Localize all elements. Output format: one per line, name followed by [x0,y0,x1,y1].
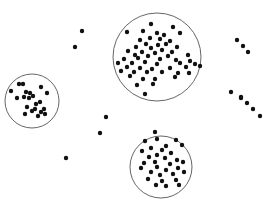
data-point [187,71,191,75]
data-point [31,94,35,98]
data-point [153,77,157,81]
data-point [27,96,31,100]
data-point [149,170,153,174]
cluster-large-top [113,13,202,101]
data-point [143,92,147,96]
data-point [138,66,142,70]
data-point [39,110,43,114]
data-point [15,96,19,100]
data-point [145,70,149,74]
data-point [153,51,157,55]
data-point [158,57,162,61]
data-point [34,102,38,106]
data-point [141,29,145,33]
data-point [184,65,188,69]
data-point [148,36,152,40]
data-point [173,75,177,79]
cluster-boundary-circle [5,74,59,128]
data-point [142,161,146,165]
outlier-point [73,45,77,49]
data-point [155,62,159,66]
data-point [141,77,145,81]
data-point [198,64,202,68]
data-point [155,31,159,35]
data-point [22,95,26,99]
data-point [134,45,138,49]
data-point [119,69,123,73]
data-point [21,82,25,86]
data-point [171,25,175,29]
data-point [175,158,179,162]
outlier-point [229,90,233,94]
outlier-point [246,50,250,54]
data-point [150,67,154,71]
data-point [136,56,140,60]
data-point [155,137,159,141]
data-point [188,59,192,63]
outlier-point [104,115,108,119]
data-point [155,153,159,157]
data-point [182,170,186,174]
data-point [153,130,157,134]
data-point [135,83,139,87]
data-point [151,82,155,86]
data-point [158,37,162,41]
data-point [177,183,181,187]
data-point [166,54,170,58]
outlier-point [98,131,102,135]
data-point [139,166,143,170]
data-point [168,39,172,43]
data-point [169,151,173,155]
data-point [24,90,28,94]
data-point [125,65,129,69]
data-point [178,31,182,35]
data-point [168,66,172,70]
data-point [25,105,29,109]
data-point [164,168,168,172]
data-point [146,177,150,181]
data-point [170,50,174,54]
outlier-point [235,38,239,42]
data-point [178,61,182,65]
data-point [193,62,197,66]
cluster-bottom [130,130,192,198]
data-point [160,148,164,152]
cluster-left [5,74,59,128]
data-point [140,149,144,153]
data-point [146,54,150,58]
data-point [186,53,190,57]
outlier-point [241,44,245,48]
data-point [39,85,43,89]
outlier-point [251,107,255,111]
data-point [128,74,132,78]
outlier-point [80,29,84,33]
data-point [138,38,142,42]
data-point [155,165,159,169]
data-point [17,82,21,86]
data-point [162,33,166,37]
data-point [168,162,172,166]
data-point [122,57,126,61]
data-point [132,70,136,74]
data-point [156,43,160,47]
data-point [125,30,129,34]
data-point [174,178,178,182]
data-point [174,138,178,142]
data-point [130,61,134,65]
data-point [160,179,164,183]
data-point [38,100,42,104]
data-point [140,50,144,54]
data-point [149,146,153,150]
data-point [36,114,40,118]
data-point [154,183,158,187]
outlier-point [64,156,68,160]
data-point [149,46,153,50]
data-point [164,144,168,148]
data-point [160,70,164,74]
data-point [143,60,147,64]
data-point [23,112,27,116]
outlier-point [245,101,249,105]
data-point [175,45,179,49]
data-point [158,173,162,177]
data-point [163,156,167,160]
